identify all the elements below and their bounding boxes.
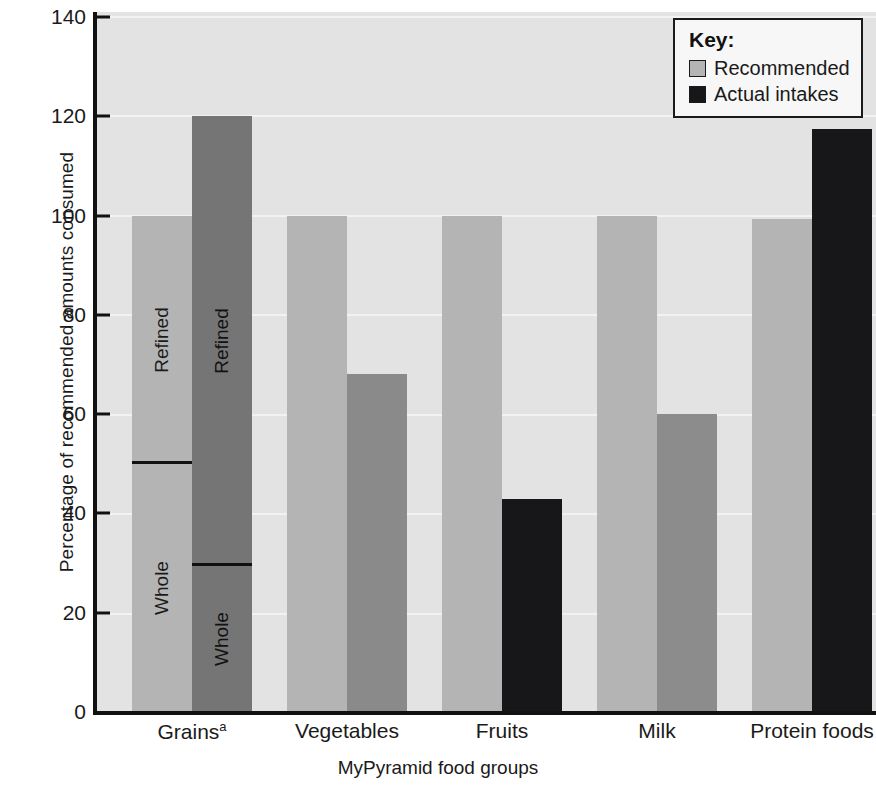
y-axis-tick-labels: 140 120 100 80 60 40 20 0 — [20, 0, 86, 787]
x-tick-label-milk: Milk — [638, 719, 675, 743]
y-tick-mark-120 — [97, 115, 110, 118]
bar-vegetables-actual[interactable] — [347, 374, 407, 712]
x-tick-label-vegetables: Vegetables — [295, 719, 399, 743]
y-tick-label-120: 120 — [34, 104, 86, 128]
y-tick-mark-100 — [97, 215, 110, 218]
y-tick-label-60: 60 — [34, 402, 86, 426]
legend-label-actual-intakes: Actual intakes — [714, 83, 839, 106]
y-tick-label-20: 20 — [34, 601, 86, 625]
x-tick-label-fruits: Fruits — [476, 719, 529, 743]
y-tick-label-100: 100 — [34, 204, 86, 228]
y-tick-label-40: 40 — [34, 501, 86, 525]
y-tick-mark-60 — [97, 413, 110, 416]
bar-fruits-actual[interactable] — [502, 499, 562, 712]
bar-protein-foods-recommended[interactable] — [752, 219, 812, 712]
bar-vegetables-recommended[interactable] — [287, 216, 347, 712]
bar-grains-actual-divider — [192, 563, 252, 566]
bar-grains-recommended-divider — [132, 461, 192, 464]
bar-chart-figure: Percentage of recommended amounts consum… — [0, 0, 876, 787]
bar-fruits-recommended[interactable] — [442, 216, 502, 712]
legend-swatch-actual-intakes-icon — [689, 86, 706, 103]
y-tick-label-140: 140 — [34, 5, 86, 29]
bar-protein-foods-actual[interactable] — [812, 129, 872, 712]
bar-grains-actual[interactable]: Refined Whole — [192, 116, 252, 712]
x-tick-label-grains: Grainsa — [157, 719, 226, 744]
x-tick-label-grains-text: Grains — [157, 720, 219, 743]
y-tick-label-80: 80 — [34, 303, 86, 327]
legend-label-recommended: Recommended — [714, 57, 850, 80]
bar-grains-recommended-upper-label: Refined — [151, 307, 173, 373]
bar-milk-recommended[interactable] — [597, 216, 657, 712]
legend-swatch-recommended-icon — [689, 60, 706, 77]
legend-item-actual-intakes[interactable]: Actual intakes — [689, 83, 849, 106]
grains-footnote-marker: a — [219, 719, 226, 734]
legend-item-recommended[interactable]: Recommended — [689, 57, 849, 80]
bar-grains-actual-upper-label: Refined — [211, 308, 233, 374]
y-tick-label-0: 0 — [34, 700, 86, 724]
y-tick-mark-140 — [97, 16, 110, 19]
bar-milk-actual[interactable] — [657, 414, 717, 712]
bar-grains-recommended[interactable]: Refined Whole — [132, 216, 192, 712]
y-tick-mark-40 — [97, 512, 110, 515]
x-axis-line — [93, 711, 876, 715]
chart-legend: Key: Recommended Actual intakes — [673, 18, 863, 118]
bar-grains-recommended-lower-label: Whole — [151, 561, 173, 615]
bar-grains-actual-lower-label: Whole — [211, 612, 233, 666]
y-tick-mark-20 — [97, 612, 110, 615]
legend-title: Key: — [689, 28, 849, 52]
y-tick-mark-80 — [97, 314, 110, 317]
x-tick-label-protein-foods: Protein foods — [750, 719, 874, 743]
x-axis-title: MyPyramid food groups — [0, 757, 876, 779]
